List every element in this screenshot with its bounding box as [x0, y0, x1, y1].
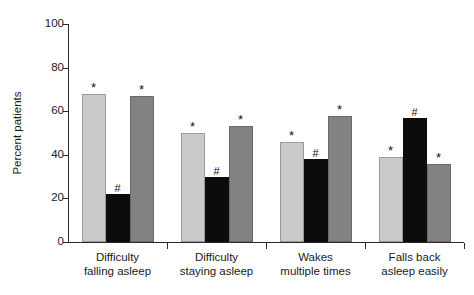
x-axis-end-tick [464, 243, 465, 249]
y-axis-tick-label: 20 [51, 191, 64, 203]
significance-hash-marker: # [213, 166, 219, 177]
bar-light-gray-2: * [181, 133, 205, 242]
significance-star-marker: * [139, 85, 144, 94]
bar-black-4: # [403, 118, 427, 242]
y-axis-tick-label: 40 [51, 148, 64, 160]
y-axis-tick-label: 80 [51, 61, 64, 73]
x-axis-group-tick [266, 243, 267, 249]
bar-black-1: # [106, 194, 130, 242]
bar-light-gray-4: * [379, 157, 403, 242]
x-axis-category-label-line: asleep easily [365, 264, 464, 278]
x-axis-group-tick [167, 243, 168, 249]
y-axis-title: Percent patients [10, 24, 24, 242]
significance-star-marker: * [436, 153, 441, 162]
x-axis-category-label-line: falling asleep [68, 264, 167, 278]
x-axis-category-label-line: multiple times [266, 264, 365, 278]
x-axis-category-label-line: Falls back [365, 250, 464, 264]
x-axis-group-tick [365, 243, 366, 249]
x-axis-category-label: Difficultyfalling asleep [68, 250, 167, 278]
x-axis-category-label-line: Wakes [266, 250, 365, 264]
bar-chart: Percent patients 020406080100 *#**#**#**… [0, 0, 474, 295]
significance-hash-marker: # [114, 183, 120, 194]
y-axis-tick-label: 100 [45, 17, 64, 29]
x-axis-category-label-line: Difficulty [68, 250, 167, 264]
y-axis-title-label: Percent patients [11, 91, 23, 174]
y-axis-tick-label: 0 [58, 235, 64, 247]
significance-star-marker: * [289, 131, 294, 140]
bar-dark-gray-2: * [229, 126, 253, 242]
x-axis-category-label-line: staying asleep [167, 264, 266, 278]
significance-star-marker: * [388, 146, 393, 155]
bar-black-3: # [304, 159, 328, 242]
x-axis-category-label-line: Difficulty [167, 250, 266, 264]
bar-light-gray-3: * [280, 142, 304, 242]
bar-dark-gray-1: * [130, 96, 154, 242]
significance-hash-marker: # [312, 148, 318, 159]
bar-light-gray-1: * [82, 94, 106, 242]
significance-star-marker: * [238, 115, 243, 124]
plot-area: 020406080100 *#**#**#**#* [68, 24, 464, 242]
x-axis-category-label: Falls backasleep easily [365, 250, 464, 278]
significance-star-marker: * [190, 122, 195, 131]
x-axis-category-label: Wakesmultiple times [266, 250, 365, 278]
significance-star-marker: * [337, 105, 342, 114]
significance-star-marker: * [91, 83, 96, 92]
y-axis-line [68, 24, 69, 242]
bar-dark-gray-4: * [427, 164, 451, 242]
bar-black-2: # [205, 177, 229, 242]
significance-hash-marker: # [411, 107, 417, 118]
bar-dark-gray-3: * [328, 116, 352, 242]
y-axis-tick-label: 60 [51, 104, 64, 116]
x-axis-category-label: Difficultystaying asleep [167, 250, 266, 278]
